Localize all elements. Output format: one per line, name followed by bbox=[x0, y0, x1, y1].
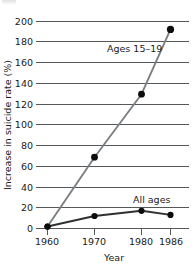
y-tick-labels-group: 200 180 160 140 120 100 80 60 40 20 0 bbox=[15, 16, 33, 234]
data-point-all-ages-1980 bbox=[138, 208, 144, 214]
series-annotation-all-ages: All ages bbox=[133, 194, 170, 205]
x-tick-label-1980: 1980 bbox=[129, 236, 153, 247]
series-annotation-ages-15-19: Ages 15–19 bbox=[107, 43, 162, 54]
y-tick-label-80: 80 bbox=[21, 140, 33, 151]
x-tick-label-1970: 1970 bbox=[82, 236, 106, 247]
y-tick-label-60: 60 bbox=[21, 161, 33, 172]
data-point-ages-15-19-1980 bbox=[138, 91, 145, 98]
series-all-ages bbox=[44, 208, 173, 230]
y-tickmarks-group bbox=[36, 22, 41, 229]
series-all-ages-line bbox=[48, 211, 171, 227]
y-tick-label-160: 160 bbox=[15, 57, 33, 68]
suicide-rate-line-chart: 200 180 160 140 120 100 80 60 40 20 0 19… bbox=[0, 0, 196, 266]
y-tick-label-0: 0 bbox=[27, 223, 33, 234]
y-tick-label-140: 140 bbox=[15, 78, 33, 89]
y-tick-label-120: 120 bbox=[15, 99, 33, 110]
y-tick-label-200: 200 bbox=[15, 16, 33, 27]
chart-canvas: 200 180 160 140 120 100 80 60 40 20 0 19… bbox=[0, 0, 196, 266]
y-tick-label-100: 100 bbox=[15, 119, 33, 130]
data-point-ages-15-19-1986 bbox=[167, 26, 174, 33]
data-point-ages-15-19-1960 bbox=[44, 223, 50, 229]
x-tick-label-1986: 1986 bbox=[159, 236, 183, 247]
y-tick-label-20: 20 bbox=[21, 202, 33, 213]
data-point-ages-15-19-1970 bbox=[91, 154, 98, 161]
x-tickmarks-group bbox=[48, 229, 171, 235]
y-tick-label-40: 40 bbox=[21, 182, 33, 193]
y-axis-title: Increase in suicide rate (%) bbox=[2, 60, 13, 190]
data-point-all-ages-1970 bbox=[91, 213, 97, 219]
x-axis-title: Year bbox=[103, 252, 124, 263]
y-tick-label-180: 180 bbox=[15, 36, 33, 47]
x-tick-label-1960: 1960 bbox=[35, 236, 59, 247]
data-point-all-ages-1986 bbox=[167, 212, 173, 218]
x-tick-labels-group: 1960 1970 1980 1986 bbox=[35, 236, 183, 247]
